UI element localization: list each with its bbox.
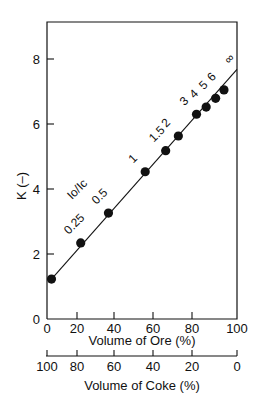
x-secondary-axis-title: Volume of Coke (%): [84, 378, 200, 393]
y-tick-label: 8: [33, 52, 40, 67]
point-label: 0.25: [61, 210, 88, 237]
x2-tick-label: 100: [36, 359, 58, 374]
data-point: [47, 274, 56, 283]
y-tick-label: 6: [33, 117, 40, 132]
k-vs-ore-volume-chart: 02468 020406080100 100806040200 ∞ 0.250.…: [0, 0, 261, 409]
x2-tick-label: 40: [146, 359, 160, 374]
data-point: [174, 131, 183, 140]
data-point: [202, 103, 211, 112]
y-axis-title: K (–): [14, 172, 29, 200]
point-label: 1: [125, 151, 140, 166]
point-label: 6: [204, 69, 219, 84]
point-label: 4: [186, 86, 201, 101]
infinity-label: ∞: [221, 51, 237, 67]
data-point: [104, 208, 113, 217]
y-tick-label: 2: [33, 247, 40, 262]
data-point: [211, 94, 220, 103]
x-tick-label: 20: [70, 321, 84, 336]
data-point: [192, 110, 201, 119]
x-axis-title: Volume of Ore (%): [89, 333, 196, 348]
y-axis-ticks: 02468: [33, 52, 54, 327]
secondary-x-axis: 100806040200: [36, 350, 240, 374]
annotation-header: Io/Ic: [64, 176, 90, 202]
y-tick-label: 4: [33, 182, 40, 197]
data-point: [219, 85, 228, 94]
y-tick-label: 0: [33, 312, 40, 327]
x2-tick-label: 80: [70, 359, 84, 374]
point-label: 3: [177, 94, 192, 109]
x-tick-label: 0: [43, 321, 50, 336]
x2-tick-label: 20: [185, 359, 199, 374]
point-label: 5: [196, 78, 211, 93]
point-label: 0.5: [89, 185, 111, 207]
data-point: [141, 167, 150, 176]
x2-tick-label: 60: [107, 359, 121, 374]
x-tick-label: 100: [226, 321, 248, 336]
x2-tick-label: 0: [233, 359, 240, 374]
data-point: [76, 238, 85, 247]
point-labels: 0.250.511.523456: [61, 69, 219, 237]
data-point: [161, 146, 170, 155]
